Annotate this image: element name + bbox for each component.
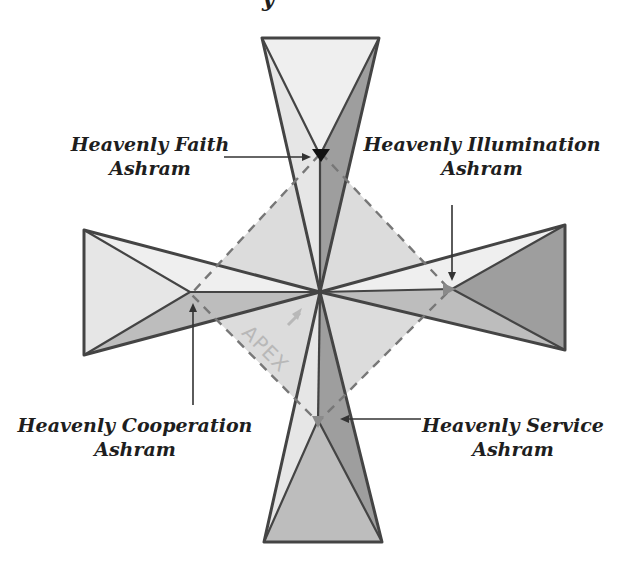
service-label: Heavenly Service Ashram bbox=[421, 414, 604, 460]
illumination-label: Heavenly Illumination Ashram bbox=[362, 133, 600, 179]
illumination-label-line2: Ashram bbox=[439, 157, 523, 179]
ashram-cross-diagram: y bbox=[0, 0, 624, 570]
illumination-label-line1: Heavenly Illumination bbox=[362, 133, 600, 155]
cooperation-label: Heavenly Cooperation Ashram bbox=[17, 414, 253, 460]
faith-label: Heavenly Faith Ashram bbox=[70, 133, 230, 179]
title-fragment: y bbox=[261, 0, 277, 11]
service-label-line2: Ashram bbox=[470, 438, 554, 460]
faith-label-line2: Ashram bbox=[107, 157, 191, 179]
cooperation-label-line1: Heavenly Cooperation bbox=[17, 414, 253, 436]
service-label-line1: Heavenly Service bbox=[421, 414, 604, 436]
faith-label-line1: Heavenly Faith bbox=[70, 133, 230, 155]
cooperation-label-line2: Ashram bbox=[92, 438, 176, 460]
